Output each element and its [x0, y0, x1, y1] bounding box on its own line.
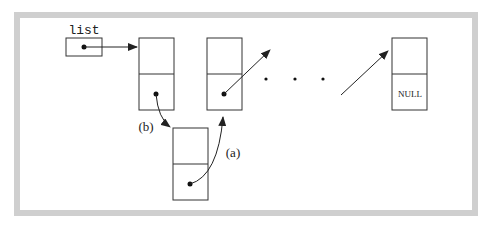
null-label: NULL	[398, 89, 422, 99]
list-label: list	[68, 23, 99, 38]
label-a: (a)	[226, 145, 240, 160]
label-b: (b)	[138, 119, 153, 134]
linked-list-diagram: list NULL (b) (a)	[0, 0, 488, 228]
figure-frame	[17, 15, 475, 213]
